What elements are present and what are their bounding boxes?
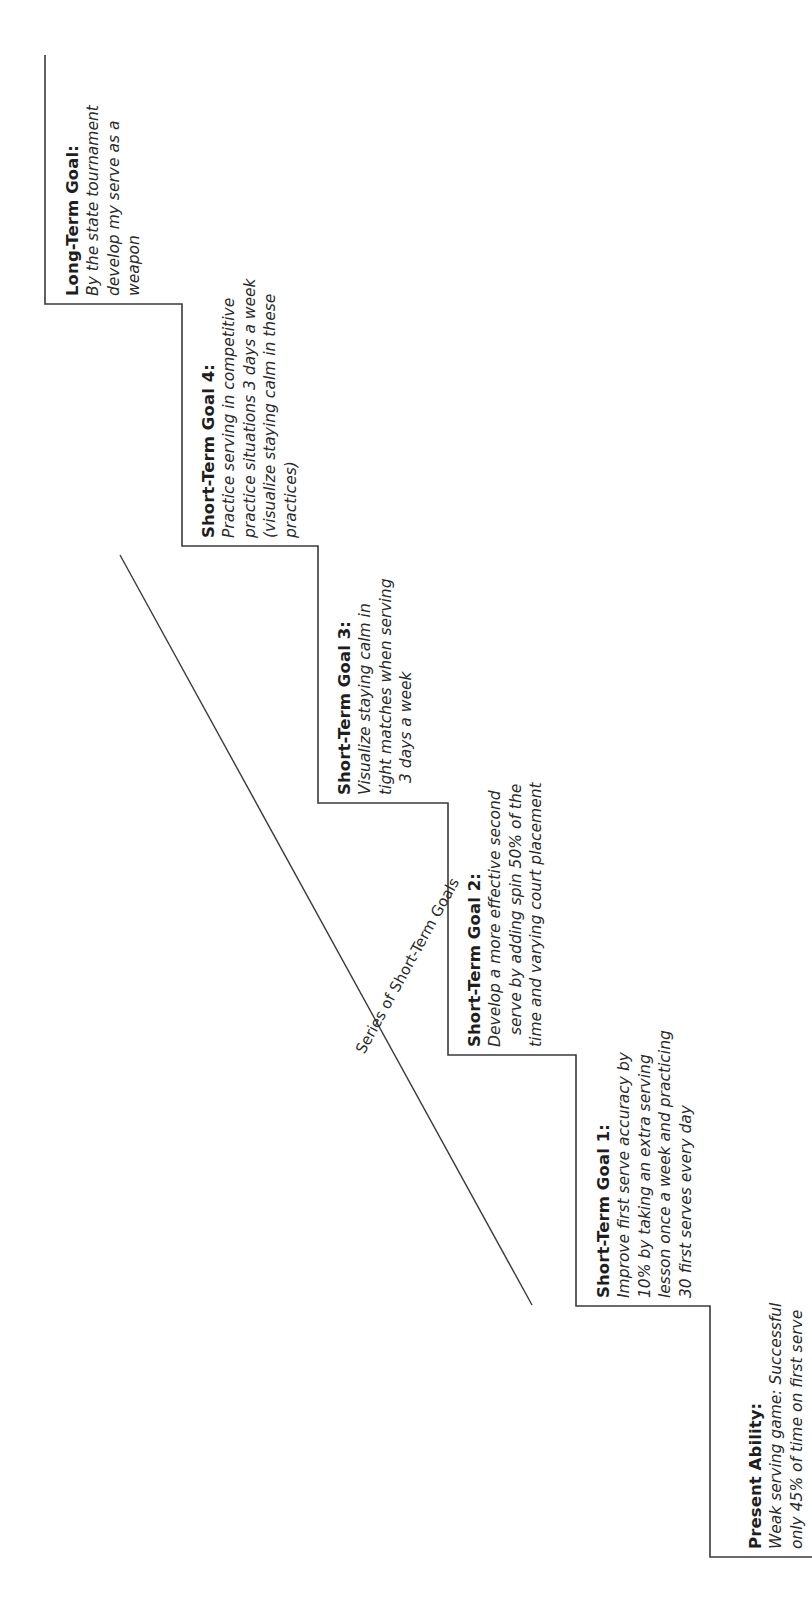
short-term-goal-4-line: Practice serving in competitive [219,278,240,538]
short-term-goal-3-line: Visualize staying calm in [355,578,376,795]
short-term-goal-2-line: Develop a more effective second [485,782,506,1047]
short-term-goal-4-line: practices) [281,278,302,538]
present-ability-line: only 45% of time on first serve [787,1303,808,1549]
staircase-path [45,55,812,1557]
present-ability-line: Weak serving game: Successful [766,1303,787,1549]
present-ability-block: Present Ability: Weak serving game: Succ… [745,1303,807,1549]
long-term-goal-line: develop my serve as a [104,105,125,296]
short-term-goal-4-title: Short-Term Goal 4: [198,278,219,538]
short-term-goal-3-line: tight matches when serving [376,578,397,795]
short-term-goal-2-line: time and varying court placement [526,782,547,1047]
short-term-goal-3-line: 3 days a week [396,578,417,795]
long-term-goal-block: Long-Term Goal: By the state tournament … [62,105,145,296]
short-term-goal-2-line: serve by adding spin 50% of the [506,782,527,1047]
long-term-goal-line: By the state tournament [83,105,104,296]
short-term-goal-1-title: Short-Term Goal 1: [593,1030,614,1298]
short-term-goal-3-block: Short-Term Goal 3: Visualize staying cal… [334,578,417,795]
long-term-goal-line: weapon [124,105,145,296]
short-term-goal-1-line: Improve first serve accuracy by [614,1030,635,1298]
short-term-goal-2-title: Short-Term Goal 2: [464,782,485,1047]
short-term-goal-1-line: lesson once a week and practicing [655,1030,676,1298]
short-term-goal-3-title: Short-Term Goal 3: [334,578,355,795]
present-ability-title: Present Ability: [745,1303,766,1549]
short-term-goal-2-block: Short-Term Goal 2: Develop a more effect… [464,782,547,1047]
short-term-goal-1-block: Short-Term Goal 1: Improve first serve a… [593,1030,696,1298]
short-term-goal-4-line: (visualize staying calm in these [260,278,281,538]
short-term-goal-1-line: 30 first serves every day [676,1030,697,1298]
long-term-goal-title: Long-Term Goal: [62,105,83,296]
short-term-goal-4-line: practice situations 3 days a week [240,278,261,538]
short-term-goal-1-line: 10% by taking an extra serving [635,1030,656,1298]
short-term-goal-4-block: Short-Term Goal 4: Practice serving in c… [198,278,301,538]
